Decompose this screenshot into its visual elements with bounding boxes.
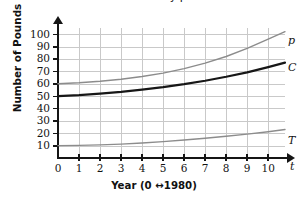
- curve-c: [58, 63, 285, 96]
- curve-layer: [0, 0, 308, 202]
- curve-label-c: C: [288, 61, 296, 74]
- x-axis-title: Year (0 ↔1980): [0, 180, 308, 191]
- curve-t: [58, 130, 285, 146]
- curve-label-p: p: [288, 34, 295, 47]
- chart-figure: Chicken and Turkey per Person Number of …: [0, 0, 308, 202]
- curve-label-t: T: [288, 134, 295, 147]
- x-axis-variable-label: t: [290, 160, 294, 173]
- curve-p: [58, 32, 285, 84]
